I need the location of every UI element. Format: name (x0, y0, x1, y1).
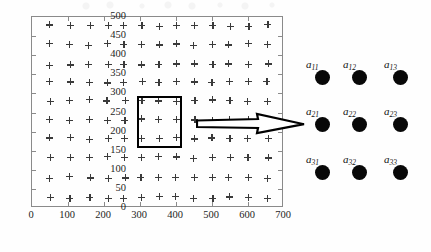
grid-point-marker (209, 195, 216, 202)
grid-point-marker (138, 154, 145, 161)
grid-point-marker (190, 42, 197, 49)
x-tick (104, 17, 105, 21)
y-tick (32, 170, 36, 171)
sampled-array-panel: a11a12a13a21a22a23a31a32a33 (296, 0, 431, 252)
grid-point-marker (105, 61, 112, 68)
x-tick (212, 202, 213, 206)
grid-point-marker (191, 22, 198, 29)
grid-point-marker (47, 154, 54, 161)
grid-point-marker (46, 78, 53, 85)
y-tick (32, 132, 36, 133)
grid-point-marker (227, 154, 234, 161)
grid-point-marker (172, 174, 179, 181)
grid-point-marker (46, 62, 53, 69)
grid-point-marker (67, 154, 74, 161)
x-tick (248, 202, 249, 206)
grid-point-marker (104, 117, 111, 124)
grid-point-marker (87, 174, 94, 181)
grid-point-marker (46, 134, 53, 141)
y-tick (278, 74, 282, 75)
y-tick (32, 74, 36, 75)
grid-point-marker (138, 22, 145, 29)
y-tick (278, 55, 282, 56)
grid-point-marker (86, 154, 93, 161)
y-tick (278, 170, 282, 171)
grid-point-marker (121, 117, 128, 124)
grid-point-marker (104, 79, 111, 86)
grid-point-marker (227, 23, 234, 30)
grid-point-marker (264, 195, 271, 202)
grid-point-marker (173, 40, 180, 47)
x-tick (104, 202, 105, 206)
grid-point-marker (104, 153, 111, 160)
grid-point-marker (67, 78, 74, 85)
grid-point-marker (86, 79, 93, 86)
grid-point-marker (120, 61, 127, 68)
grid-point-marker (173, 78, 180, 85)
grid-point-marker (86, 116, 93, 123)
y-tick (32, 189, 36, 190)
grid-point-marker (191, 135, 198, 142)
x-tick (68, 202, 69, 206)
grid-point-marker (156, 23, 163, 30)
grid-point-marker (46, 175, 53, 182)
array-dot-label: a23 (384, 106, 397, 117)
grid-point-marker (85, 42, 92, 49)
grid-point-marker (245, 23, 252, 30)
grid-point-marker (226, 78, 233, 85)
grid-point-marker (87, 22, 94, 29)
selection-box[interactable] (137, 96, 182, 148)
grid-point-marker (67, 22, 74, 29)
grid-point-marker (67, 61, 74, 68)
mapping-arrow (196, 112, 306, 136)
grid-point-marker (265, 154, 272, 161)
grid-point-marker (245, 194, 252, 201)
grid-point-marker (173, 153, 180, 160)
x-tick (68, 17, 69, 21)
grid-point-marker (209, 154, 216, 161)
grid-point-marker (156, 41, 163, 48)
grid-point-marker (209, 22, 216, 29)
grid-point-marker (122, 97, 129, 104)
grid-point-marker (47, 98, 54, 105)
array-dot-label: a21 (306, 106, 319, 117)
grid-point-marker (85, 61, 92, 68)
grid-point-marker (264, 21, 271, 28)
grid-point-marker (105, 135, 112, 142)
x-tick (212, 17, 213, 21)
grid-point-marker (104, 40, 111, 47)
grid-point-marker (208, 79, 215, 86)
grid-point-marker (244, 98, 251, 105)
grid-point-marker (46, 21, 53, 28)
grid-point-marker (155, 79, 162, 86)
array-dot-label: a22 (343, 106, 356, 117)
grid-point-marker (191, 78, 198, 85)
array-dot-label: a12 (343, 59, 356, 70)
grid-point-marker (66, 41, 73, 48)
grid-point-marker (173, 22, 180, 29)
grid-point-marker (190, 195, 197, 202)
grid-point-marker (137, 174, 144, 181)
grid-point-marker (263, 78, 270, 85)
x-tick (176, 202, 177, 206)
grid-point-marker (190, 155, 197, 162)
grid-point-marker (120, 22, 127, 29)
grid-point-marker (156, 193, 163, 200)
grid-point-marker (47, 194, 54, 201)
x-tick (176, 17, 177, 21)
grid-point-marker (155, 153, 162, 160)
grid-point-marker (138, 41, 145, 48)
grid-point-marker (46, 116, 53, 123)
grid-point-marker (245, 78, 252, 85)
grid-point-marker (105, 22, 112, 29)
array-dot-label: a33 (384, 154, 397, 165)
array-dot-label: a32 (343, 154, 356, 165)
grid-point-marker (66, 173, 73, 180)
grid-point-marker (86, 194, 93, 201)
grid-point-marker (209, 96, 216, 103)
grid-point-marker (155, 61, 162, 68)
x-tick (248, 17, 249, 21)
grid-point-marker (265, 60, 272, 67)
grid-point-marker (245, 174, 252, 181)
grid-point-marker (121, 154, 128, 161)
